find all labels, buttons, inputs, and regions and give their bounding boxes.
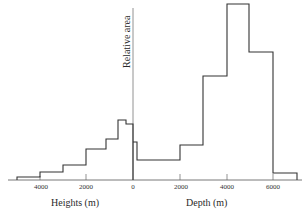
tick-label-depth-6000: 6000 (266, 183, 281, 191)
x-axis-title-heights: Heights (m) (51, 197, 99, 209)
heights-histogram (17, 120, 133, 180)
tick-marks (40, 174, 273, 180)
tick-label-heights-4000: 4000 (34, 183, 49, 191)
tick-label-depth-2000: 2000 (174, 183, 189, 191)
tick-label-depth-4000: 4000 (220, 183, 235, 191)
tick-label-heights-2000: 2000 (79, 183, 94, 191)
depth-histogram (133, 4, 297, 180)
x-axis-title-depth: Depth (m) (186, 197, 227, 209)
tick-label-zero: 0 (131, 183, 135, 191)
y-axis-title: Relative area (121, 15, 132, 68)
hypsometric-chart: 4000 2000 0 2000 4000 6000 Heights (m) D… (0, 0, 307, 213)
